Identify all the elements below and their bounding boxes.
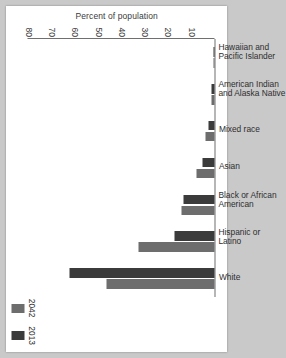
bar-2013 bbox=[183, 195, 214, 205]
bar-group bbox=[28, 113, 214, 150]
axis-label-percent-of-population: Percent of population bbox=[7, 9, 226, 23]
category-label: White bbox=[218, 273, 233, 282]
legend-label: 2013 bbox=[27, 326, 35, 345]
legend-item-2013: 2013 bbox=[11, 326, 35, 345]
bar-2042 bbox=[106, 279, 214, 289]
category-label: Mixed race bbox=[218, 126, 233, 135]
y-tick-10: 10 bbox=[187, 23, 196, 37]
chart-legend: 20422013 bbox=[11, 299, 35, 345]
category-label: Black or African American bbox=[218, 191, 233, 208]
y-axis-tick-labels: 1020304050607080 bbox=[28, 23, 214, 37]
bar-group bbox=[28, 223, 214, 260]
bar-2042 bbox=[205, 132, 214, 142]
bar-2042 bbox=[213, 58, 214, 68]
bar-2013 bbox=[208, 121, 214, 131]
y-tick-70: 70 bbox=[47, 23, 56, 37]
bar-group bbox=[28, 186, 214, 223]
y-tick-30: 30 bbox=[140, 23, 149, 37]
bar-2013 bbox=[211, 84, 214, 94]
y-tick-50: 50 bbox=[94, 23, 103, 37]
y-tick-60: 60 bbox=[70, 23, 79, 37]
bar-2042 bbox=[181, 206, 214, 216]
y-tick-80: 80 bbox=[24, 23, 33, 37]
bar-2013 bbox=[69, 268, 214, 278]
rotated-chart-stage: Percent of population 1020304050607080 H… bbox=[7, 7, 226, 351]
legend-swatch bbox=[11, 304, 24, 313]
bar-2042 bbox=[211, 95, 214, 105]
bar-2042 bbox=[138, 242, 214, 252]
legend-label: 2042 bbox=[27, 299, 35, 318]
plot-area bbox=[28, 39, 214, 297]
category-labels: Hawaiian and Pacific IslanderAmerican In… bbox=[215, 39, 226, 297]
category-label: Asian bbox=[218, 162, 233, 171]
bar-group bbox=[28, 150, 214, 187]
bar-group bbox=[28, 39, 214, 76]
bar-group bbox=[28, 76, 214, 113]
bar-2013 bbox=[202, 158, 214, 168]
y-tick-20: 20 bbox=[163, 23, 172, 37]
y-tick-40: 40 bbox=[117, 23, 126, 37]
bar-chart: Percent of population 1020304050607080 H… bbox=[7, 7, 226, 351]
category-label: Hispanic or Latino bbox=[218, 228, 233, 245]
bar-group bbox=[28, 260, 214, 297]
chart-paper: Percent of population 1020304050607080 H… bbox=[6, 6, 227, 352]
bar-2013 bbox=[213, 47, 214, 57]
category-label: Hawaiian and Pacific Islander bbox=[218, 43, 233, 60]
legend-swatch bbox=[11, 331, 24, 340]
bar-2013 bbox=[174, 231, 214, 241]
legend-item-2042: 2042 bbox=[11, 299, 35, 318]
bar-2042 bbox=[196, 169, 214, 179]
category-label: American Indian and Alaska Native bbox=[218, 80, 233, 97]
photo-background: Percent of population 1020304050607080 H… bbox=[0, 0, 233, 358]
